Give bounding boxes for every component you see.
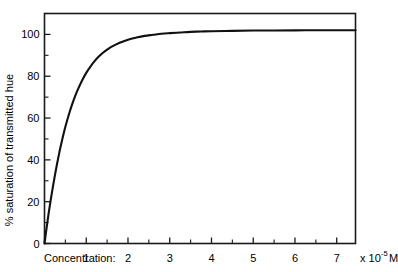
x-tick-label: 7 xyxy=(334,252,340,264)
y-tick-label: 0 xyxy=(33,238,39,250)
y-tick-label: 100 xyxy=(21,28,39,40)
x-tick-label: 2 xyxy=(125,252,131,264)
x-tick-label: 3 xyxy=(167,252,173,264)
y-axis-title: % saturation of transmitted hue xyxy=(3,74,15,226)
y-tick-label: 80 xyxy=(27,70,39,82)
x-axis-unit-exponent: -5 xyxy=(381,249,388,258)
y-tick-label: 40 xyxy=(27,154,39,166)
y-tick-label: 60 xyxy=(27,112,39,124)
x-axis-unit-base: x 10 xyxy=(360,252,381,264)
x-tick-label: 5 xyxy=(250,252,256,264)
x-axis-title: Concentration: xyxy=(44,252,116,264)
chart-figure: 020406080100 1234567 % saturation of tra… xyxy=(0,0,398,272)
y-tick-label: 20 xyxy=(27,196,39,208)
x-axis-unit: x 10 -5 M xyxy=(360,249,398,264)
x-axis-unit-suffix: M xyxy=(389,252,398,264)
chart-canvas: 020406080100 1234567 % saturation of tra… xyxy=(0,0,398,272)
x-tick-label: 6 xyxy=(292,252,298,264)
chart-background xyxy=(0,0,398,272)
x-tick-label: 4 xyxy=(208,252,214,264)
